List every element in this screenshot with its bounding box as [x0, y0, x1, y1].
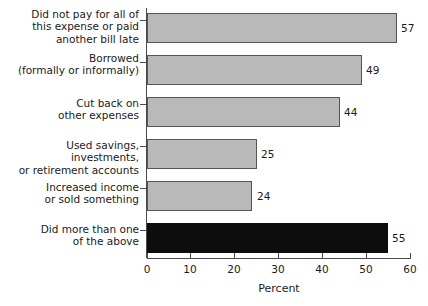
y-axis-tick [140, 20, 146, 21]
bar-row: 24 [147, 181, 410, 211]
x-axis-tick-label: 30 [271, 264, 284, 275]
bar-value-label: 57 [401, 23, 414, 34]
plot-area: 57 49 44 25 24 55 [147, 8, 410, 258]
category-label: Did more than one of the above [0, 223, 139, 248]
category-label: Used savings, investments, or retirement… [0, 139, 139, 176]
x-axis-line [147, 258, 411, 259]
bar-row: 44 [147, 97, 410, 127]
x-axis-tick [410, 253, 411, 259]
bar-value-label: 44 [344, 107, 357, 118]
x-axis-tick-label: 50 [359, 264, 372, 275]
bar-row: 55 [147, 223, 410, 253]
x-axis-tick-label: 40 [315, 264, 328, 275]
bar-value-label: 55 [392, 233, 405, 244]
bar[interactable] [147, 139, 257, 169]
bar-value-label: 25 [261, 149, 274, 160]
x-axis-tick-label: 10 [183, 264, 196, 275]
y-axis-tick [140, 104, 146, 105]
category-label: Borrowed (formally or informally) [0, 52, 139, 77]
y-axis-tick [140, 146, 146, 147]
x-axis-tick [366, 253, 367, 259]
x-axis-tick-label: 20 [227, 264, 240, 275]
bar-row: 57 [147, 13, 410, 43]
bar[interactable] [147, 223, 388, 253]
x-axis-tick [190, 253, 191, 259]
bar-value-label: 24 [257, 191, 270, 202]
bar[interactable] [147, 97, 340, 127]
x-axis-title: Percent [147, 283, 411, 294]
x-axis-tick-label: 60 [403, 264, 416, 275]
x-axis-tick [234, 253, 235, 259]
bar[interactable] [147, 181, 252, 211]
category-label: Increased income or sold something [0, 181, 139, 206]
x-axis-tick [147, 253, 148, 259]
bar-value-label: 49 [366, 65, 379, 76]
bar-row: 25 [147, 139, 410, 169]
category-label: Cut back on other expenses [0, 97, 139, 122]
bar-row: 49 [147, 55, 410, 85]
y-axis-tick [140, 62, 146, 63]
x-axis-tick [322, 253, 323, 259]
x-axis-tick [278, 253, 279, 259]
x-axis-tick-label: 0 [144, 264, 151, 275]
category-label-column: Did not pay for all of this expense or p… [0, 8, 139, 258]
bar-chart: Did not pay for all of this expense or p… [0, 0, 428, 306]
bar[interactable] [147, 13, 397, 43]
category-label: Did not pay for all of this expense or p… [0, 8, 139, 45]
y-axis-tick [140, 230, 146, 231]
bar[interactable] [147, 55, 362, 85]
y-axis-tick [140, 188, 146, 189]
